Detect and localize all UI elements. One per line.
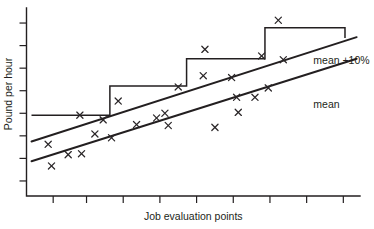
data-series-group	[32, 28, 357, 161]
data-point-marker	[275, 17, 281, 23]
data-point-marker	[78, 151, 84, 157]
data-point-marker	[133, 121, 139, 127]
data-point-marker	[175, 84, 181, 90]
axis-lines	[27, 8, 361, 196]
data-point-marker	[235, 109, 241, 115]
series-mean-10	[32, 37, 357, 141]
x-axis-ticks	[53, 196, 343, 203]
data-point-marker	[45, 141, 51, 147]
data-point-marker	[202, 46, 208, 52]
data-point-marker	[200, 73, 206, 79]
data-point-marker	[252, 94, 258, 100]
data-point-marker	[165, 122, 171, 128]
data-point-marker	[65, 152, 71, 158]
series-label-mean-plus-10: mean +10%	[313, 54, 369, 66]
series-label-mean: mean	[313, 98, 339, 110]
data-point-marker	[212, 124, 218, 130]
series-mean	[32, 59, 357, 161]
chart-container: mean +10% mean Job evaluation points Pou…	[0, 0, 374, 229]
data-point-marker	[48, 163, 54, 169]
data-point-marker	[162, 110, 168, 116]
y-axis-label: Pound per hour	[2, 57, 14, 130]
x-axis-label: Job evaluation points	[144, 210, 243, 222]
data-point-marker	[153, 115, 159, 121]
data-point-marker	[92, 131, 98, 137]
chart-svg: mean +10% mean Job evaluation points Pou…	[0, 0, 374, 229]
series-pay-grade-structure	[32, 28, 345, 115]
axes-group	[20, 8, 361, 203]
data-point-marker	[115, 98, 121, 104]
y-axis-ticks	[20, 23, 27, 181]
annotations-group: mean +10% mean	[313, 54, 369, 109]
